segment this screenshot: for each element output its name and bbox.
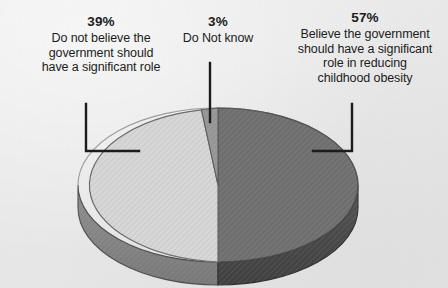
desc-do-not-believe-3: have a significant role (6, 60, 196, 75)
desc-do-not-know-1: Do Not know (152, 31, 284, 46)
desc-believe-4: childhood obesity (282, 71, 448, 86)
percent-do-not-know: 3% (152, 14, 284, 30)
desc-believe-1: Believe the government (282, 27, 448, 42)
desc-believe-2: should have a significant (282, 42, 448, 57)
percent-believe: 57% (282, 10, 448, 26)
chart-canvas: 39% Do not believe the government should… (0, 0, 448, 288)
callout-label-believe: 57% Believe the government should have a… (282, 10, 448, 86)
callout-label-do-not-know: 3% Do Not know (152, 14, 284, 46)
desc-believe-3: role in reducing (282, 56, 448, 71)
desc-do-not-believe-2: government should (6, 46, 196, 61)
